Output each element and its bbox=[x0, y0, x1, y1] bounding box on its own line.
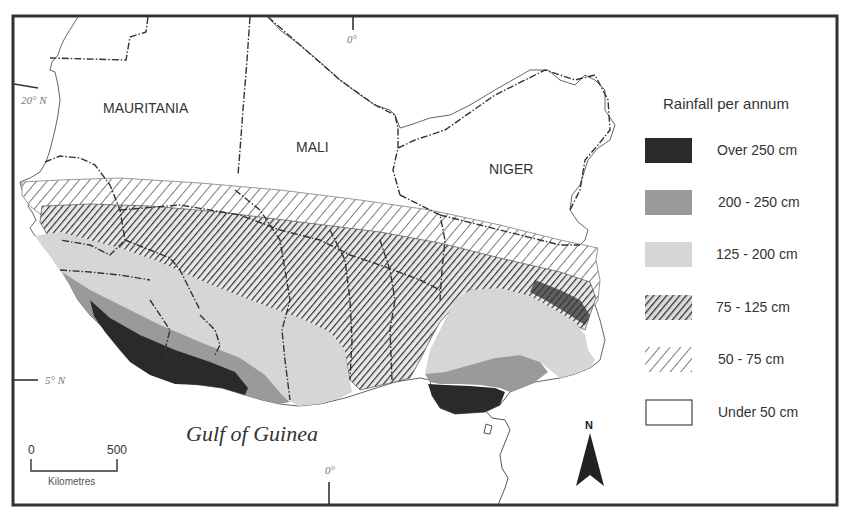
lon-0-top-label: 0° bbox=[347, 33, 357, 45]
legend-label-50-75: 50 - 75 cm bbox=[718, 351, 784, 367]
scale-unit-label: Kilometres bbox=[48, 476, 95, 487]
legend-label-75-125: 75 - 125 cm bbox=[716, 299, 790, 315]
legend-label-under-50: Under 50 cm bbox=[718, 404, 798, 420]
legend-swatch-200-250 bbox=[645, 190, 692, 215]
scale-start-label: 0 bbox=[28, 443, 35, 457]
legend-swatch-125-200 bbox=[645, 242, 692, 267]
legend-swatch-50-75 bbox=[645, 347, 692, 372]
legend-label-125-200: 125 - 200 cm bbox=[716, 246, 798, 262]
lat-5-label: 5° N bbox=[45, 374, 65, 386]
legend-swatch-over-250 bbox=[645, 138, 692, 163]
legend-label-over-250: Over 250 cm bbox=[717, 142, 797, 158]
north-label: N bbox=[585, 419, 593, 431]
legend-label-200-250: 200 - 250 cm bbox=[718, 194, 800, 210]
legend-swatch-75-125 bbox=[645, 295, 692, 320]
lat-20-label: 20° N bbox=[21, 94, 47, 106]
water-label-gulf-of-guinea: Gulf of Guinea bbox=[186, 421, 318, 447]
country-label-niger: NIGER bbox=[489, 161, 533, 177]
legend-title: Rainfall per annum bbox=[663, 95, 789, 112]
scale-end-label: 500 bbox=[107, 443, 127, 457]
lon-0-bottom-label: 0° bbox=[325, 464, 335, 476]
legend-swatch-under-50 bbox=[646, 400, 692, 425]
country-label-mali: MALI bbox=[296, 139, 329, 155]
country-label-mauritania: MAURITANIA bbox=[103, 100, 188, 116]
